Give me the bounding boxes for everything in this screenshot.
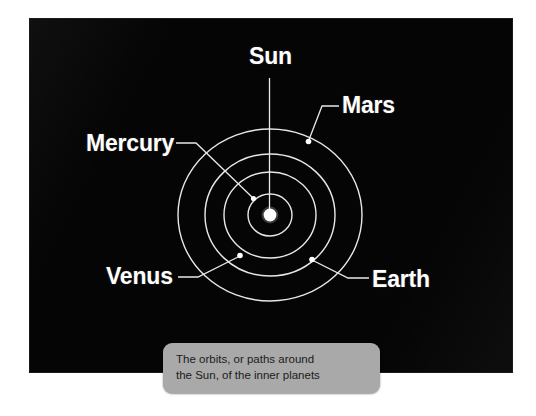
label-mars: Mars	[342, 94, 395, 117]
label-venus: Venus	[106, 265, 173, 288]
planet-marker-mercury	[251, 196, 256, 201]
leader-line-mercury	[176, 143, 253, 198]
label-mercury: Mercury	[86, 132, 174, 155]
label-sun: Sun	[249, 45, 292, 68]
leader-line-venus	[178, 256, 240, 277]
label-earth: Earth	[372, 268, 430, 291]
sun-marker	[264, 209, 277, 222]
figure-root: Sun Mars Mercury Venus Earth The orbits,…	[0, 0, 536, 416]
planet-marker-venus	[237, 253, 243, 259]
caption-text: The orbits, or paths around the Sun, of …	[176, 351, 380, 383]
planet-marker-mars	[306, 139, 312, 145]
planet-marker-earth	[309, 257, 315, 263]
leader-line-mars	[309, 106, 340, 141]
leader-line-earth	[312, 260, 369, 278]
caption-box: The orbits, or paths around the Sun, of …	[163, 343, 380, 393]
